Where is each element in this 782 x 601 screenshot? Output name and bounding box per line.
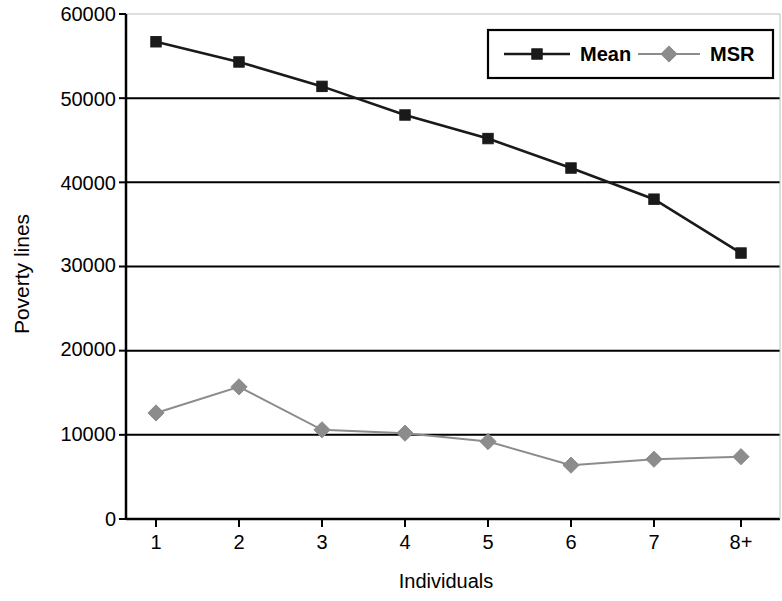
data-point-marker [317, 81, 327, 91]
x-tick-label: 7 [631, 531, 677, 553]
data-point-marker [646, 451, 662, 467]
x-tick-label: 3 [299, 531, 345, 553]
data-point-marker [733, 449, 749, 465]
plot-area: MeanMSR [0, 0, 782, 601]
data-point-marker [400, 110, 410, 120]
series-layer [148, 37, 749, 474]
legend-label: MSR [710, 43, 755, 65]
data-point-marker [566, 163, 576, 173]
data-point-marker [480, 433, 496, 449]
x-tick-label: 6 [548, 531, 594, 553]
data-point-marker [563, 457, 579, 473]
chart-legend: MeanMSR [488, 30, 773, 78]
x-tick-label: 8+ [718, 531, 764, 553]
x-axis-title: Individuals [126, 570, 766, 593]
data-point-marker [397, 425, 413, 441]
series-msr [148, 379, 749, 473]
data-point-marker [231, 379, 247, 395]
data-point-marker [148, 405, 164, 421]
data-point-marker [151, 37, 161, 47]
data-point-marker [234, 57, 244, 67]
line-chart: 60000 50000 40000 30000 20000 10000 0 Po… [0, 0, 782, 601]
data-point-marker [483, 133, 493, 143]
gridlines [126, 14, 780, 519]
legend-label: Mean [580, 43, 631, 65]
data-point-marker [736, 248, 746, 258]
data-point-marker [532, 49, 542, 59]
x-tick-label: 5 [465, 531, 511, 553]
x-tick-label: 2 [216, 531, 262, 553]
data-point-marker [649, 194, 659, 204]
x-tick-label: 1 [133, 531, 179, 553]
x-tick-label: 4 [382, 531, 428, 553]
